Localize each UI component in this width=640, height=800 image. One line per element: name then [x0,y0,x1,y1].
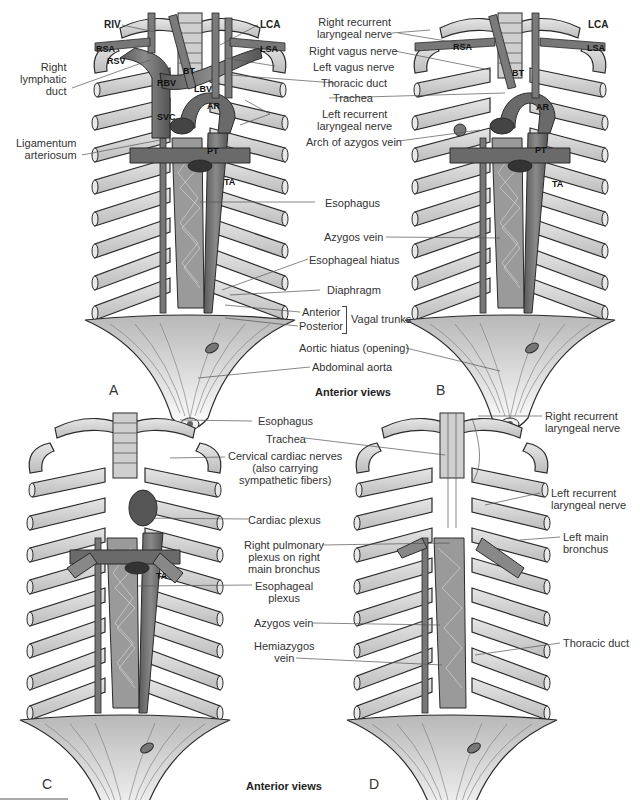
label-aortic-hiatus: Aortic hiatus (opening) [299,342,409,354]
panel-letter-c: C [42,776,52,792]
abbr-ar: AR [207,101,220,111]
caption-anterior-views-bottom: Anterior views [246,780,322,792]
label-cardiac-plexus: Cardiac plexus [248,514,321,526]
abbr-lbv: LBV [194,84,212,94]
label-left-vagus-nerve: Left vagus nerve [313,61,394,73]
abbr-b-ta: TA [552,179,563,189]
abbr-bt: BT [183,66,195,76]
abbr-lsa: LSA [260,44,278,54]
abbr-rsa: RSA [96,44,115,54]
label-abdominal-aorta: Abdominal aorta [312,361,392,373]
panel-letter-b: B [436,382,445,398]
panel-letter-d: D [369,776,379,792]
label-esophageal-hiatus: Esophageal hiatus [309,254,400,266]
label-esophagus-top: Esophagus [325,197,380,209]
label-left-main-bronchus: Left main bronchus [563,531,608,555]
abbr-b-rsa: RSA [453,42,472,52]
abbr-pt: PT [207,146,219,156]
label-anterior: Anterior [302,306,341,318]
label-right-recurrent-laryngeal-nerve-top: Right recurrent laryngeal nerve [317,16,392,40]
abbr-b-lsa: LSA [587,43,605,53]
label-right-pulmonary-plexus: Right pulmonary plexus on right main bro… [244,539,324,575]
label-vagal-trunks: Vagal trunks [351,313,411,325]
abbr-rsv: RSV [107,56,126,66]
abbr-svc: SVC [157,112,176,122]
panel-letter-a: A [109,382,118,398]
label-azygos-vein-bottom: Azygos vein [254,617,313,629]
label-right-recurrent-laryngeal-nerve-d: Right recurrent laryngeal nerve [545,410,620,434]
label-arch-of-azygos-vein: Arch of azygos vein [306,136,402,148]
label-trachea-top: Trachea [333,92,373,104]
label-cervical-cardiac-nerves: Cervical cardiac nerves (also carrying s… [228,450,342,486]
abbr-b-bt: BT [512,68,524,78]
label-esophagus-bottom: Esophagus [258,415,313,427]
label-thoracic-duct-top: Thoracic duct [321,77,387,89]
label-diaphragm: Diaphragm [327,284,381,296]
abbr-riv: RIV [104,19,121,30]
abbr-rbv: RBV [157,78,176,88]
label-thoracic-duct-d: Thoracic duct [563,637,629,649]
caption-anterior-views-top: Anterior views [315,386,391,398]
label-left-recurrent-laryngeal-nerve-d: Left recurrent laryngeal nerve [551,487,626,511]
label-hemiazygos-vein: Hemiazygos vein [254,640,315,664]
abbr-ta: TA [224,177,235,187]
label-right-vagus-nerve: Right vagus nerve [309,45,398,57]
label-right-lymphatic-duct: Right lymphatic duct [20,61,66,97]
label-esophageal-plexus: Esophageal plexus [255,580,313,604]
abbr-b-pt: PT [535,145,547,155]
label-ligamentum-arteriosum: Ligamentum arteriosum [16,137,77,161]
label-azygos-vein-top: Azygos vein [324,231,383,243]
abbr-c-ta: TA [156,571,167,581]
abbr-b-ar: AR [536,102,549,112]
abbr-lca: LCA [260,19,281,30]
label-posterior: Posterior [299,320,343,332]
abbr-b-lca: LCA [588,19,609,30]
vagal-trunks-bracket [342,306,347,334]
label-left-recurrent-laryngeal-nerve-top: Left recurrent laryngeal nerve [317,108,392,132]
label-trachea-bottom: Trachea [266,433,306,445]
